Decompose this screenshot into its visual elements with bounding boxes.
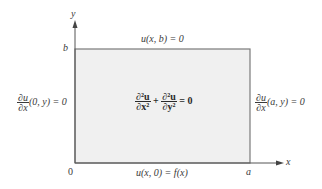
left-derivative-den: ∂x	[17, 103, 29, 112]
x-axis-arrow-icon	[276, 161, 284, 166]
y-axis-label: y	[71, 8, 75, 19]
right-derivative: ∂u ∂x	[255, 93, 267, 112]
equation-rhs: = 0	[179, 95, 192, 106]
origin-label: 0	[68, 166, 73, 177]
left-derivative: ∂u ∂x	[17, 93, 29, 112]
right-condition-rest: (a, y) = 0	[267, 96, 305, 107]
term1-den: ∂x²	[135, 102, 151, 111]
left-boundary-condition: ∂u ∂x (0, y) = 0	[17, 93, 67, 112]
plus-sign: +	[153, 95, 159, 106]
bottom-boundary-condition: u(x, 0) = f(x)	[136, 167, 188, 178]
laplace-equation: ∂²u ∂x² + ∂²u ∂y² = 0	[135, 92, 192, 111]
x-axis-label: x	[286, 156, 290, 167]
term2: ∂²u ∂y²	[161, 92, 177, 111]
left-condition-rest: (0, y) = 0	[29, 96, 67, 107]
right-boundary-condition: ∂u ∂x (a, y) = 0	[255, 93, 305, 112]
term2-den: ∂y²	[161, 102, 177, 111]
right-derivative-den: ∂x	[255, 103, 267, 112]
y-axis-arrow-icon	[73, 20, 78, 28]
term1: ∂²u ∂x²	[135, 92, 151, 111]
b-label: b	[63, 42, 68, 53]
a-label: a	[246, 166, 251, 177]
top-boundary-condition: u(x, b) = 0	[141, 33, 184, 44]
